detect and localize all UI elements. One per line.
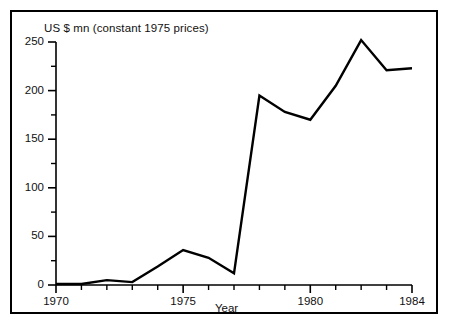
chart-figure: US $ mn (constant 1975 prices) 050100150…	[0, 0, 453, 330]
axes	[56, 42, 412, 285]
y-tick-label: 100	[14, 182, 44, 194]
chart-title: US $ mn (constant 1975 prices)	[44, 23, 209, 35]
y-axis-ticks	[48, 42, 56, 285]
x-axis-ticks	[56, 285, 412, 293]
y-tick-label: 200	[14, 85, 44, 97]
data-series-line	[56, 40, 412, 284]
y-tick-label: 250	[14, 36, 44, 48]
y-tick-label: 50	[14, 230, 44, 242]
line-chart-plot	[0, 0, 453, 330]
y-tick-label: 0	[14, 279, 44, 291]
x-axis-title: Year	[0, 303, 453, 315]
y-tick-label: 150	[14, 133, 44, 145]
